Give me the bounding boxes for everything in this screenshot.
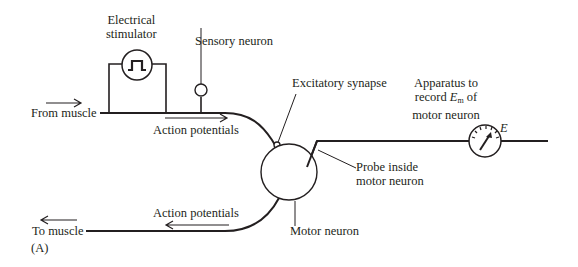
action-potentials-top-label: Action potentials — [153, 123, 239, 137]
to-muscle-arrow — [41, 216, 77, 224]
apparatus-record-text: record — [415, 90, 447, 104]
probe-line-2: motor neuron — [356, 174, 424, 188]
to-muscle-label: To muscle — [32, 224, 84, 238]
motor-neuron-label: Motor neuron — [290, 224, 359, 238]
action-potentials-bottom-label: Action potentials — [153, 206, 239, 220]
action-potentials-bottom-arrow — [166, 221, 229, 229]
apparatus-line-1: Apparatus to — [393, 76, 499, 90]
electrical-stimulator-line-1: Electrical — [106, 13, 157, 27]
motor-neuron-soma — [261, 144, 317, 200]
probe-leader — [318, 150, 356, 168]
voltmeter-gauge-icon — [469, 125, 501, 157]
sensory-neuron-soma — [195, 84, 207, 96]
electrical-stimulator-label: Electrical stimulator — [106, 13, 157, 41]
apparatus-of-text: of — [467, 90, 477, 104]
panel-label: (A) — [31, 241, 48, 255]
apparatus-line-2: record Em of — [393, 90, 499, 108]
action-potentials-top-arrow — [165, 114, 227, 122]
recording-wire — [307, 141, 548, 167]
stimulator-icon — [122, 50, 152, 80]
gauge-e-label: E — [500, 121, 508, 135]
excitatory-synapse-label: Excitatory synapse — [292, 76, 387, 90]
probe-label: Probe inside motor neuron — [356, 160, 424, 188]
electrical-stimulator-line-2: stimulator — [106, 27, 157, 41]
probe-line-1: Probe inside — [356, 160, 424, 174]
apparatus-label: Apparatus to record Em of motor neuron — [393, 76, 499, 122]
sensory-neuron-label: Sensory neuron — [195, 34, 273, 48]
reflex-circuit-diagram — [0, 0, 578, 267]
from-muscle-label: From muscle — [31, 106, 97, 120]
em-subscript: m — [457, 96, 463, 105]
apparatus-line-3: motor neuron — [393, 108, 499, 122]
synapse-leader — [277, 94, 296, 145]
